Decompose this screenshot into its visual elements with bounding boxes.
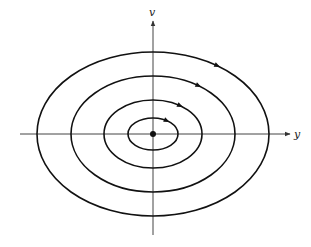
flow-direction-arrow-icon (195, 82, 203, 89)
horizontal-axis-label: y (293, 128, 301, 141)
equilibrium-point (150, 131, 156, 137)
flow-direction-arrow-icon (176, 102, 184, 109)
phase-portrait-diagram: y v (0, 0, 311, 247)
flow-direction-arrow-icon (214, 62, 222, 69)
vertical-axis-label: v (149, 6, 156, 19)
flow-direction-arrow-icon (163, 117, 170, 124)
